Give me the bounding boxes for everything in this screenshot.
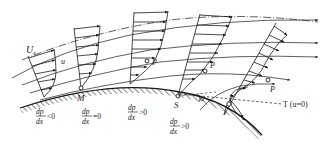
svg-text:dp: dp <box>36 107 44 116</box>
velocity-profile-M <box>74 26 100 90</box>
svg-text:dx: dx <box>36 117 44 126</box>
point-S-label: S <box>174 100 179 110</box>
svg-text:dp: dp <box>82 107 90 116</box>
pressure-gradient-3: dp dx >0 <box>128 103 147 122</box>
free-stream-velocity-label: Ue <box>26 44 36 56</box>
svg-text:<0: <0 <box>47 112 55 121</box>
svg-text:dx: dx <box>82 117 90 126</box>
boundary-layer-diagram: Ue u M P P P S α T (u=0) dp dx <0 dp dx … <box>0 0 327 151</box>
point-P2-label: P <box>209 61 215 70</box>
svg-text:dp: dp <box>128 103 136 112</box>
svg-text:dp: dp <box>170 117 178 126</box>
point-P3-label: P <box>269 85 275 94</box>
boundary-layer-edge <box>22 16 318 60</box>
pressure-gradient-2: dp dx =0 <box>82 107 101 126</box>
velocity-profile-reversed <box>224 23 287 118</box>
zero-velocity-label: T (u=0) <box>283 100 308 109</box>
svg-text:dx: dx <box>128 113 136 122</box>
point-M-label: M <box>76 93 85 103</box>
pressure-gradient-1: dp dx <0 <box>36 107 55 126</box>
svg-text:>0: >0 <box>181 122 189 131</box>
pressure-gradient-4: dp dx >0 <box>170 117 189 136</box>
svg-text:>0: >0 <box>139 108 147 117</box>
svg-text:dx: dx <box>170 127 178 136</box>
svg-text:=0: =0 <box>93 112 101 121</box>
local-velocity-label: u <box>61 57 65 66</box>
velocity-profile-adverse <box>130 11 168 84</box>
point-P1-label: P <box>151 58 157 67</box>
